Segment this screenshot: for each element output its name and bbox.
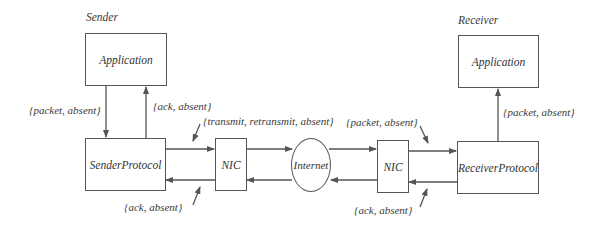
receiver-protocol-label: ReceiverProtocol	[458, 162, 538, 174]
label-receiver-protocol-to-app: {packet, absent}	[503, 106, 575, 118]
sender-protocol-label: SenderProtocol	[90, 159, 162, 171]
sender-application-label: Application	[99, 54, 153, 66]
leader-receiver-ack	[420, 189, 427, 207]
sender-protocol-box: SenderProtocol	[85, 138, 166, 191]
receiver-title: Receiver	[458, 14, 498, 26]
sender-nic-box: NIC	[215, 138, 247, 191]
receiver-nic-box: NIC	[377, 140, 409, 193]
label-sender-protocol-to-nic: {transmit, retransmit, absent}	[203, 115, 334, 127]
label-receiver-nic-to-protocol: {packet, absent}	[346, 116, 418, 128]
internet-label: Internet	[294, 159, 329, 171]
label-sender-app-to-protocol: {packet, absent}	[29, 104, 101, 116]
sender-nic-label: NIC	[221, 159, 240, 171]
label-sender-nic-to-protocol: {ack, absent}	[124, 201, 182, 213]
sender-title: Sender	[86, 11, 118, 23]
receiver-application-box: Application	[458, 35, 539, 88]
internet-ellipse: Internet	[291, 138, 331, 192]
sender-application-box: Application	[85, 33, 167, 86]
leader-transmit	[193, 124, 200, 141]
receiver-application-label: Application	[472, 56, 526, 68]
receiver-protocol-box: ReceiverProtocol	[457, 141, 539, 194]
label-receiver-protocol-to-nic: {ack, absent}	[354, 204, 412, 216]
leader-sender-ack	[193, 187, 200, 205]
label-sender-protocol-to-app: {ack, absent}	[153, 100, 211, 112]
leader-receiver-packet	[420, 126, 428, 143]
receiver-nic-label: NIC	[383, 161, 402, 173]
